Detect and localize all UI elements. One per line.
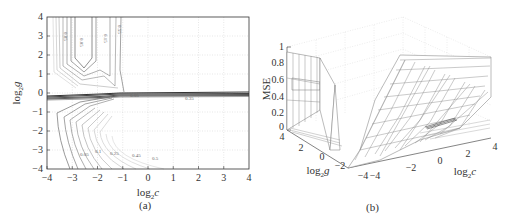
y-tick: 1 [38, 68, 43, 79]
g-tick: −2 [335, 160, 346, 171]
g-tick: 2 [299, 142, 304, 153]
caption-b: (b) [366, 201, 379, 213]
contour-plot: 0.85 0.05 0.15 0.55 0.05 0.35 0.05 0.05 … [0, 0, 260, 221]
x-tick: −2 [92, 172, 103, 183]
x-tick: −3 [67, 172, 78, 183]
g-tick: 4 [280, 131, 285, 142]
y-tick: −2 [32, 125, 43, 136]
svg-text:0.85: 0.85 [63, 32, 68, 41]
z-tick: 1 [279, 41, 284, 52]
z-tick: 0.2 [272, 107, 285, 118]
x-tick: 3 [221, 172, 226, 183]
svg-text:0.05: 0.05 [130, 93, 139, 98]
x-tick: 2 [196, 172, 201, 183]
surface-plot-panel: 1 0.8 0.6 0.4 0.2 0 4 2 0 −2 −4 −4 −2 0 … [260, 0, 508, 221]
g-axis-label: log2g [306, 164, 330, 179]
z-tick: 0.4 [272, 91, 285, 102]
c-axis-label: log2c [454, 165, 477, 180]
x-tick-labels: −4 −3 −2 −1 0 1 2 3 4 [42, 172, 252, 183]
c-tick: 2 [466, 148, 471, 159]
svg-text:0.15: 0.15 [103, 34, 108, 43]
y-tick: 0 [38, 87, 43, 98]
c-tick: 4 [493, 141, 498, 152]
x-tick: −4 [42, 172, 53, 183]
svg-text:0.25: 0.25 [110, 151, 119, 156]
c-tick: 0 [438, 155, 443, 166]
x-tick: 1 [171, 172, 176, 183]
x-tick: −1 [117, 172, 128, 183]
z-tick: 0.6 [272, 74, 285, 85]
svg-text:0.5: 0.5 [152, 156, 159, 161]
y-axis-label: log2g [10, 81, 25, 105]
svg-text:0.35: 0.35 [185, 96, 194, 101]
y-tick: −1 [32, 106, 43, 117]
z-tick-labels: 1 0.8 0.6 0.4 0.2 0 [272, 41, 285, 132]
z-tick: 0.8 [272, 57, 285, 68]
svg-text:0.1: 0.1 [95, 149, 102, 154]
svg-text:0.05: 0.05 [79, 38, 84, 47]
svg-text:0.05: 0.05 [80, 152, 89, 157]
c-tick: −4 [370, 170, 381, 181]
c-tick: −2 [406, 162, 417, 173]
y-tick: −4 [32, 163, 43, 174]
surface-plot: 1 0.8 0.6 0.4 0.2 0 4 2 0 −2 −4 −4 −2 0 … [260, 0, 508, 221]
g-tick: 0 [320, 151, 325, 162]
caption-a: (a) [139, 199, 151, 211]
y-tick: 3 [38, 30, 43, 41]
contour-plot-panel: 0.85 0.05 0.15 0.55 0.05 0.35 0.05 0.05 … [0, 0, 260, 221]
x-tick: 4 [247, 172, 252, 183]
tick-marks [47, 36, 224, 169]
svg-text:0.55: 0.55 [117, 25, 122, 34]
svg-text:0.45: 0.45 [132, 153, 141, 158]
y-tick: 4 [38, 11, 43, 22]
y-tick-labels: 4 3 2 1 0 −1 −2 −3 −4 [32, 11, 43, 174]
x-tick: 0 [146, 172, 151, 183]
g-tick: −4 [358, 170, 369, 181]
y-tick: −3 [32, 144, 43, 155]
surface-mesh [287, 52, 491, 168]
svg-text:0.05: 0.05 [225, 92, 234, 97]
z-axis-label: MSE [260, 77, 272, 100]
y-tick: 2 [38, 49, 43, 60]
